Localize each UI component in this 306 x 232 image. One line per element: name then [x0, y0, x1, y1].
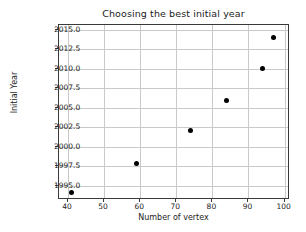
gridline-vertical — [140, 25, 141, 198]
x-axis-label: Number of vertex — [58, 213, 289, 222]
gridline-horizontal — [59, 186, 288, 187]
x-tick-label: 70 — [171, 202, 181, 211]
plot-area — [58, 24, 289, 199]
x-tick-label: 80 — [207, 202, 217, 211]
x-tick-label: 60 — [134, 202, 144, 211]
gridline-vertical — [285, 25, 286, 198]
x-tick-label: 40 — [62, 202, 72, 211]
data-point — [134, 161, 139, 166]
data-point — [188, 128, 193, 133]
gridline-horizontal — [59, 127, 288, 128]
data-point — [271, 35, 276, 40]
gridline-horizontal — [59, 147, 288, 148]
gridline-horizontal — [59, 88, 288, 89]
chart-title: Choosing the best initial year — [58, 8, 289, 19]
x-tick-label: 100 — [276, 202, 290, 211]
data-point — [224, 98, 229, 103]
gridline-vertical — [176, 25, 177, 198]
gridline-horizontal — [59, 69, 288, 70]
gridline-horizontal — [59, 166, 288, 167]
x-tick-label: 90 — [243, 202, 253, 211]
data-point — [260, 66, 265, 71]
y-axis-label: Initial Year — [10, 53, 19, 133]
x-tick-label: 50 — [98, 202, 108, 211]
gridline-horizontal — [59, 108, 288, 109]
data-point — [69, 190, 74, 195]
gridline-vertical — [104, 25, 105, 198]
gridline-vertical — [212, 25, 213, 198]
gridline-vertical — [248, 25, 249, 198]
gridline-horizontal — [59, 49, 288, 50]
gridline-horizontal — [59, 30, 288, 31]
chart-figure: Choosing the best initial year 405060708… — [0, 0, 306, 232]
